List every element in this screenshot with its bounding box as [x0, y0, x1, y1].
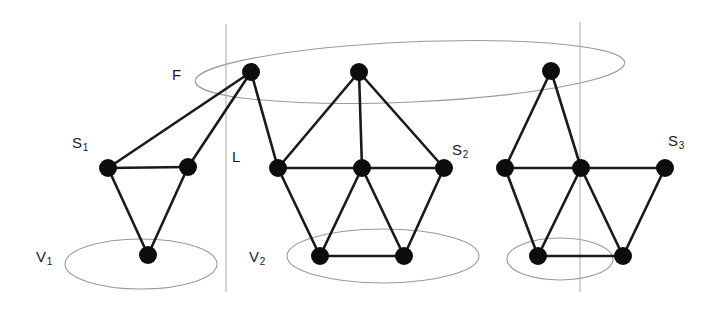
- graph-edge: [251, 72, 278, 168]
- graph-node: [139, 246, 157, 264]
- graph-node: [311, 247, 329, 265]
- label-set-v1: V1: [36, 248, 52, 265]
- graph-node: [99, 159, 117, 177]
- label-set-s2-sub: 2: [463, 149, 469, 160]
- label-set-v1-text: V: [36, 248, 46, 265]
- graph-node: [656, 159, 674, 177]
- label-set-v2: V2: [249, 248, 265, 265]
- graph-edge: [505, 71, 551, 168]
- V1-ellipse: [65, 239, 217, 289]
- graph-canvas: [0, 0, 718, 313]
- V3-ellipse: [507, 238, 613, 280]
- graph-node: [614, 247, 632, 265]
- label-set-f: F: [172, 66, 181, 83]
- graph-node: [179, 158, 197, 176]
- graph-edge: [359, 72, 362, 168]
- graph-edge: [581, 168, 623, 256]
- graph-edge: [538, 168, 581, 256]
- graph-diagram: F S1 S2 S3 L V1 V2: [0, 0, 718, 313]
- label-set-s3: S3: [668, 132, 684, 149]
- label-set-v2-sub: 2: [260, 256, 266, 267]
- graph-node: [242, 63, 260, 81]
- label-set-s3-sub: 3: [679, 140, 685, 151]
- label-set-s2-text: S: [452, 141, 462, 158]
- label-set-s1-text: S: [72, 134, 82, 151]
- graph-node: [572, 159, 590, 177]
- label-set-v1-sub: 1: [47, 256, 53, 267]
- label-set-s1: S1: [72, 134, 88, 151]
- graph-node: [542, 62, 560, 80]
- graph-edge: [108, 167, 188, 168]
- graph-edge: [362, 168, 404, 256]
- label-set-s1-sub: 1: [83, 142, 89, 153]
- graph-edge: [108, 72, 251, 168]
- graph-node: [529, 247, 547, 265]
- graph-edge: [108, 168, 148, 255]
- graph-edge: [320, 168, 362, 256]
- graph-edge: [148, 167, 188, 255]
- graph-node: [269, 159, 287, 177]
- node-layer: [99, 62, 674, 265]
- graph-edge: [278, 72, 359, 168]
- graph-edge: [404, 168, 444, 256]
- label-set-v2-text: V: [249, 248, 259, 265]
- graph-node: [350, 63, 368, 81]
- graph-node: [395, 247, 413, 265]
- label-set-f-text: F: [172, 66, 181, 83]
- graph-edge: [623, 168, 665, 256]
- graph-edge: [505, 168, 538, 256]
- label-partition-l: L: [232, 148, 241, 165]
- label-set-s2: S2: [452, 141, 468, 158]
- label-partition-l-text: L: [232, 148, 241, 165]
- graph-node: [435, 159, 453, 177]
- graph-node: [496, 159, 514, 177]
- label-set-s3-text: S: [668, 132, 678, 149]
- graph-edge: [359, 72, 444, 168]
- graph-node: [353, 159, 371, 177]
